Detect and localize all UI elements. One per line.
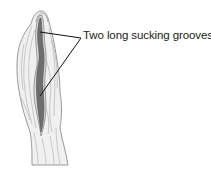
sucking-grooves-label: Two long sucking grooves: [83, 29, 211, 41]
scolex-illustration: [0, 0, 211, 172]
